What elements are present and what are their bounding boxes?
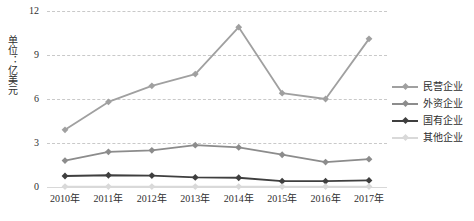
x-axis-tick: 2017年 — [354, 194, 384, 204]
data-point — [62, 183, 69, 190]
data-point — [322, 159, 329, 166]
line-chart: 单位：亿美元 036912 2010年2011年2012年2013年2014年2… — [0, 0, 474, 221]
legend-item-其他企业[interactable]: 其他企业 — [392, 129, 472, 146]
legend-swatch-icon — [392, 132, 418, 143]
series-民营企业 — [62, 24, 373, 133]
data-point — [235, 183, 242, 190]
y-axis-tick: 3 — [34, 138, 39, 148]
data-point — [105, 172, 112, 179]
x-axis-tick: 2013年 — [180, 194, 210, 204]
legend-item-label: 国有企业 — [423, 116, 463, 126]
data-point — [192, 174, 199, 181]
x-axis-tick: 2010年 — [50, 194, 80, 204]
data-point — [148, 82, 155, 89]
legend: 民营企业外资企业国有企业其他企业 — [392, 78, 472, 146]
series-line — [65, 145, 369, 162]
legend-item-国有企业[interactable]: 国有企业 — [392, 112, 472, 129]
x-axis-tick: 2012年 — [137, 194, 167, 204]
data-point — [322, 183, 329, 190]
data-point — [62, 173, 69, 180]
data-point — [148, 183, 155, 190]
y-axis-tick: 0 — [34, 182, 39, 192]
data-point — [105, 148, 112, 155]
data-point — [62, 157, 69, 164]
data-point — [192, 142, 199, 149]
data-point — [148, 147, 155, 154]
plot-area: 036912 2010年2011年2012年2013年2014年2015年201… — [47, 11, 387, 187]
legend-swatch-icon — [392, 81, 418, 92]
legend-item-label: 其他企业 — [423, 133, 463, 143]
data-point — [366, 183, 373, 190]
legend-item-民营企业[interactable]: 民营企业 — [392, 78, 472, 95]
legend-swatch-icon — [392, 98, 418, 109]
legend-item-label: 外资企业 — [423, 99, 463, 109]
legend-item-外资企业[interactable]: 外资企业 — [392, 95, 472, 112]
data-point — [366, 156, 373, 163]
series-外资企业 — [62, 142, 373, 166]
x-axis-tick: 2011年 — [94, 194, 124, 204]
data-point — [192, 183, 199, 190]
x-axis-tick: 2014年 — [224, 194, 254, 204]
data-point — [105, 183, 112, 190]
series-line — [65, 27, 369, 130]
data-point — [148, 172, 155, 179]
data-point — [235, 174, 242, 181]
series-国有企业 — [62, 172, 373, 185]
data-point — [366, 177, 373, 184]
legend-item-label: 民营企业 — [423, 82, 463, 92]
y-axis-tick: 9 — [34, 50, 39, 60]
legend-swatch-icon — [392, 115, 418, 126]
data-point — [235, 144, 242, 151]
y-axis-tick: 6 — [34, 94, 39, 104]
series-其他企业 — [62, 183, 373, 190]
data-point — [279, 183, 286, 190]
series-layer — [47, 11, 387, 187]
x-axis-tick: 2015年 — [267, 194, 297, 204]
y-axis-tick: 12 — [29, 6, 39, 16]
y-axis-unit-label: 单位：亿美元 — [1, 10, 17, 120]
data-point — [279, 151, 286, 158]
x-axis-tick: 2016年 — [311, 194, 341, 204]
